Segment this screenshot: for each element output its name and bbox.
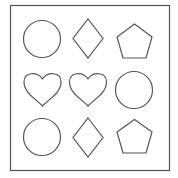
shape-grid-figure xyxy=(0,0,178,178)
diamond-shape-r1c2 xyxy=(73,19,103,58)
circle-shape-r2c3 xyxy=(116,72,153,109)
circle-shape-r3c1 xyxy=(24,119,61,156)
pentagon-shape-r1c3 xyxy=(117,24,152,58)
diamond-shape-r3c2 xyxy=(73,118,103,157)
frame-border xyxy=(11,6,170,171)
heart-shape-r2c2 xyxy=(70,74,107,106)
heart-shape-r2c1 xyxy=(24,74,61,106)
pentagon-shape-r3c3 xyxy=(117,120,152,154)
circle-shape-r1c1 xyxy=(24,21,61,58)
